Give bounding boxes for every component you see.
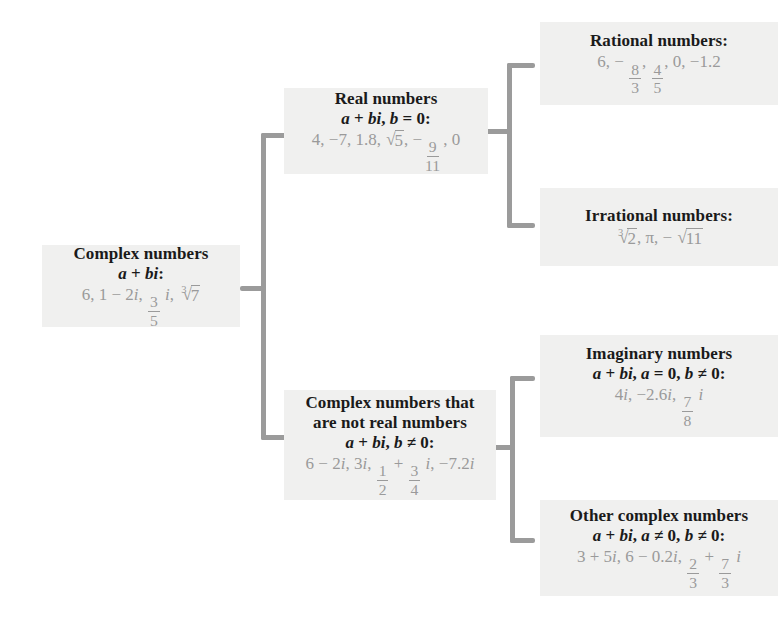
node-other-complex-numbers-examples: 3 + 5i, 6 − 0.2i, 23 + 73 i [577,547,741,591]
node-real-numbers-title: Real numbers [335,89,438,109]
node-irrational-numbers: Irrational numbers: 3√2, π, − √11 [540,188,778,266]
node-irrational-numbers-title: Irrational numbers: [585,206,733,226]
connector-to-irrational [507,223,535,228]
node-not-real-examples: 6 − 2i, 3i, 12 + 34 i, −7.2i [306,454,475,498]
connector-to-other-complex [510,538,535,543]
connector-to-rational [507,63,535,68]
node-irrational-numbers-examples: 3√2, π, − √11 [615,228,703,248]
node-not-real-title-line-2: are not real numbers [313,413,467,433]
node-rational-numbers-examples: 6, − 83, 45, 0, −1.2 [597,52,720,96]
node-other-complex-numbers-title: Other complex numbers [570,506,748,526]
node-rational-numbers-title: Rational numbers: [590,31,728,51]
node-other-complex-numbers-form: a + bi, a ≠ 0, b ≠ 0: [593,526,725,546]
node-imaginary-numbers-examples: 4i, −2.6i, 78 i [615,385,704,429]
node-not-real-complex-numbers: Complex numbers that are not real number… [284,390,496,500]
node-complex-numbers-title: Complex numbers [73,244,208,264]
connector-complex-spine [261,133,266,440]
node-not-real-title-line-1: Complex numbers that [305,393,474,413]
node-not-real-form: a + bi, b ≠ 0: [346,433,435,453]
node-imaginary-numbers-form: a + bi, a = 0, b ≠ 0: [593,364,726,384]
node-complex-numbers-examples: 6, 1 − 2i, 35 i, 3√7 [82,285,201,329]
node-complex-numbers: Complex numbers a + bi: 6, 1 − 2i, 35 i,… [42,245,240,327]
connector-to-imaginary [510,376,535,381]
complex-number-classification-diagram: Complex numbers a + bi: 6, 1 − 2i, 35 i,… [0,0,784,624]
connector-real-spine [507,63,512,228]
connector-not-real-spine [510,376,515,543]
node-imaginary-numbers-title: Imaginary numbers [586,344,733,364]
node-real-numbers-form: a + bi, b = 0: [341,109,430,129]
node-complex-numbers-form: a + bi: [118,264,164,284]
node-other-complex-numbers: Other complex numbers a + bi, a ≠ 0, b ≠… [540,500,778,596]
node-real-numbers-examples: 4, −7, 1.8, √5, −911, 0 [312,130,460,174]
node-rational-numbers: Rational numbers: 6, − 83, 45, 0, −1.2 [540,22,778,105]
node-real-numbers: Real numbers a + bi, b = 0: 4, −7, 1.8, … [284,88,488,174]
node-imaginary-numbers: Imaginary numbers a + bi, a = 0, b ≠ 0: … [540,335,778,437]
